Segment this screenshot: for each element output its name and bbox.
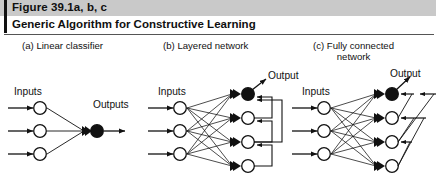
panel-c-unit-nodes (386, 88, 399, 173)
panel-b-output-arrow (252, 79, 266, 90)
panel-b-unit-nodes (242, 88, 255, 173)
panel-c-inputs-label: Inputs (302, 86, 330, 97)
panel-c-input-nodes (318, 102, 331, 161)
panel-a-diagram (8, 102, 125, 161)
panel-b-feedback (254, 97, 282, 166)
panel-c-synapses (374, 89, 385, 171)
panel-b-input-nodes (174, 102, 187, 161)
panel-c-feedback (398, 94, 434, 166)
panel-b-inputs-label: Inputs (158, 86, 186, 97)
diagram-layer: Inputs Outputs Inputs Output Inputs Outp… (0, 0, 436, 179)
panel-a-inputs-label: Inputs (14, 86, 42, 97)
figure-container: Figure 39.1a, b, c Generic Algorithm for… (0, 0, 436, 179)
bottom-clip-mask (0, 177, 436, 179)
panel-b-synapses (230, 89, 241, 171)
panel-c-output-label: Output (390, 68, 421, 79)
panel-a-input-nodes (34, 102, 47, 161)
panel-b-output-label: Output (268, 70, 299, 81)
panel-a-outputs-label: Outputs (93, 99, 129, 110)
network-diagrams (0, 0, 436, 179)
panel-c-feedback-arrows (401, 94, 436, 142)
panel-a-output-node (91, 125, 104, 138)
